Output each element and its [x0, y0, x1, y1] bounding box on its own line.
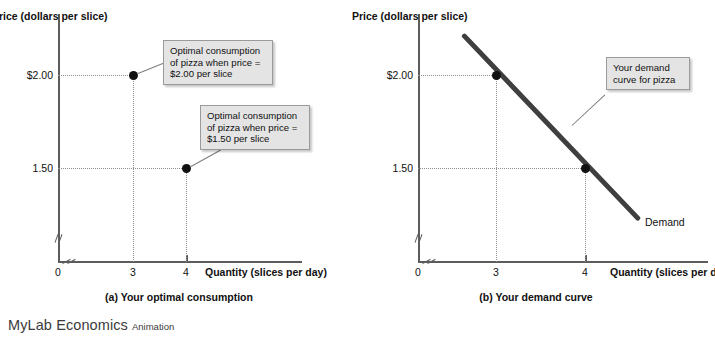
- panel-b-x-axis-title: Quantity (slices per day): [610, 266, 710, 278]
- panel-b-y-axis: [418, 14, 420, 262]
- panel-b-y-axis-title: Price (dollars per slice): [352, 10, 412, 22]
- panel-b-guide-price-200: [418, 75, 496, 76]
- panel-a-y-tick-200: $2.00: [5, 69, 53, 81]
- panel-a-data-point-3-200: [129, 71, 138, 80]
- panel-b-callout-leader: [572, 94, 606, 125]
- panel-b-x-axis: [418, 261, 708, 263]
- panel-b-callout-demand-curve: Your demand curve for pizza: [606, 57, 690, 90]
- panel-a-guide-price-200: [58, 75, 134, 76]
- panel-a-guide-price-150: [58, 168, 186, 169]
- panel-a-data-point-4-150: [182, 164, 191, 173]
- panel-b-x-tick-4: 4: [575, 266, 595, 278]
- mylab-animation-label: Animation: [132, 321, 174, 332]
- panel-a-origin-label: 0: [48, 266, 68, 278]
- panel-a-y-axis-title: Price (dollars per slice): [0, 10, 52, 22]
- panel-b-guide-price-150: [418, 168, 585, 169]
- panel-a-x-axis: [58, 261, 302, 263]
- mylab-footer: MyLab EconomicsAnimation: [8, 316, 174, 334]
- panel-a-x-axis-title: Quantity (slices per day): [205, 266, 305, 278]
- panel-b-data-point-3-200: [492, 71, 501, 80]
- panel-b-demand-curve: Price (dollars per slice) Quantity (slic…: [357, 0, 715, 300]
- panel-a-callout-leader-2: [191, 150, 221, 167]
- panel-a-y-tick-150: 1.50: [5, 162, 53, 174]
- panel-b-guide-quantity-4: [585, 168, 586, 262]
- panel-b-data-point-4-150: [581, 164, 590, 173]
- panel-a-x-tick-3: 3: [123, 266, 143, 278]
- panel-b-caption: (b) Your demand curve: [357, 291, 715, 303]
- panel-a-guide-quantity-4: [186, 168, 187, 262]
- panel-b-y-tick-200: $2.00: [365, 69, 413, 81]
- panel-a-optimal-consumption: Price (dollars per slice) Quantity (slic…: [0, 0, 358, 300]
- panel-a-x-tick-4: 4: [176, 266, 196, 278]
- panel-b-y-tick-150: 1.50: [365, 162, 413, 174]
- panel-a-callout-price-150: Optimal consumption of pizza when price …: [200, 105, 310, 150]
- panel-b-demand-label: Demand: [645, 216, 685, 228]
- panel-a-y-axis: [58, 14, 60, 262]
- figure-canvas: Price (dollars per slice) Quantity (slic…: [0, 0, 715, 352]
- mylab-brand-label: MyLab Economics: [8, 317, 128, 333]
- panel-a-callout-price-200: Optimal consumption of pizza when price …: [163, 40, 273, 85]
- panel-b-origin-label: 0: [408, 266, 428, 278]
- panel-a-caption: (a) Your optimal consumption: [0, 291, 358, 303]
- panel-b-x-tick-3: 3: [486, 266, 506, 278]
